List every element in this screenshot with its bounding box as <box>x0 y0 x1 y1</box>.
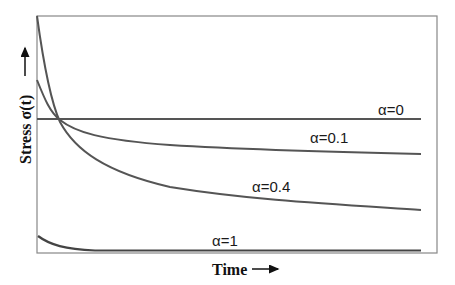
label-alpha-0.1: α=0.1 <box>310 129 348 146</box>
curve-alpha-0.4 <box>37 16 421 210</box>
x-axis-label: Time <box>212 261 247 278</box>
label-alpha-1: α=1 <box>212 232 238 249</box>
label-alpha-0.4: α=0.4 <box>252 178 290 195</box>
stress-relaxation-chart: α=0 α=0.1 α=0.4 α=1 Time Stress σ(t) <box>0 0 455 285</box>
label-alpha-0: α=0 <box>378 101 404 118</box>
y-axis-label: Stress σ(t) <box>17 95 35 164</box>
plot-frame <box>37 16 437 253</box>
curve-alpha-0.1 <box>37 80 421 154</box>
